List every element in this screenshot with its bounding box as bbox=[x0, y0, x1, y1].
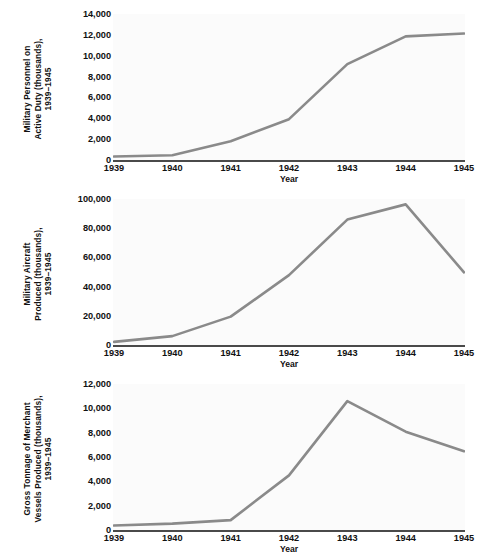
y-axis-title-container-1: Military Aircraft Produced (thousands), … bbox=[26, 199, 50, 349]
series-canvas bbox=[113, 14, 465, 160]
y-tick-label: 8,000 bbox=[88, 428, 111, 438]
x-axis-title-2: Year bbox=[113, 544, 465, 554]
y-tick-label: 12,000 bbox=[83, 379, 111, 389]
x-tick-label: 1940 bbox=[162, 533, 182, 543]
y-tick-label: 4,000 bbox=[88, 113, 111, 123]
x-tick-label: 1945 bbox=[454, 348, 474, 358]
chart-panel-merchant-vessels: Gross Tonnage of Merchant Vessels Produc… bbox=[0, 370, 491, 555]
x-axis-line-2 bbox=[113, 530, 465, 532]
x-axis-title-1: Year bbox=[113, 359, 465, 369]
y-tick-label: 4,000 bbox=[88, 476, 111, 486]
y-tick-label: 10,000 bbox=[83, 51, 111, 61]
y-axis-tick-labels-1: 020,00040,00060,00080,000100,000 bbox=[56, 199, 111, 345]
x-axis-line-0 bbox=[113, 160, 465, 162]
y-tick-label: 2,000 bbox=[88, 134, 111, 144]
chart-panel-aircraft: Military Aircraft Produced (thousands), … bbox=[0, 185, 491, 370]
y-axis-title-1: Military Aircraft Produced (thousands), … bbox=[26, 199, 50, 349]
y-tick-label: 10,000 bbox=[83, 403, 111, 413]
plot-area-2 bbox=[113, 384, 465, 530]
x-tick-label: 1944 bbox=[395, 533, 415, 543]
y-axis-tick-labels-2: 02,0004,0006,0008,00010,00012,000 bbox=[56, 384, 111, 530]
x-tick-label: 1939 bbox=[104, 533, 124, 543]
x-tick-label: 1939 bbox=[104, 348, 124, 358]
x-tick-label: 1942 bbox=[279, 163, 299, 173]
x-tick-label: 1944 bbox=[395, 348, 415, 358]
chart-panel-personnel: Military Personnel on Active Duty (thous… bbox=[0, 0, 491, 185]
plot-area-1 bbox=[113, 199, 465, 345]
y-axis-title-0: Military Personnel on Active Duty (thous… bbox=[26, 14, 50, 164]
series-canvas bbox=[113, 384, 465, 530]
x-tick-label: 1943 bbox=[337, 348, 357, 358]
y-axis-title-container-2: Gross Tonnage of Merchant Vessels Produc… bbox=[26, 384, 50, 534]
x-tick-label: 1939 bbox=[104, 163, 124, 173]
plot-area-0 bbox=[113, 14, 465, 160]
x-tick-label: 1941 bbox=[220, 533, 240, 543]
x-tick-label: 1942 bbox=[279, 533, 299, 543]
x-tick-label: 1941 bbox=[220, 163, 240, 173]
y-axis-title-2: Gross Tonnage of Merchant Vessels Produc… bbox=[26, 384, 50, 534]
data-line bbox=[114, 401, 464, 525]
x-tick-label: 1944 bbox=[395, 163, 415, 173]
y-tick-label: 6,000 bbox=[88, 452, 111, 462]
y-tick-label: 6,000 bbox=[88, 92, 111, 102]
x-tick-label: 1945 bbox=[454, 533, 474, 543]
x-tick-label: 1942 bbox=[279, 348, 299, 358]
x-tick-label: 1940 bbox=[162, 348, 182, 358]
x-tick-label: 1943 bbox=[337, 533, 357, 543]
y-tick-label: 20,000 bbox=[83, 311, 111, 321]
x-tick-label: 1945 bbox=[454, 163, 474, 173]
y-tick-label: 100,000 bbox=[78, 194, 111, 204]
y-axis-title-container-0: Military Personnel on Active Duty (thous… bbox=[26, 14, 50, 164]
x-axis-line-1 bbox=[113, 345, 465, 347]
y-tick-label: 60,000 bbox=[83, 252, 111, 262]
data-line bbox=[114, 204, 464, 341]
y-axis-tick-labels-0: 02,0004,0006,0008,00010,00012,00014,000 bbox=[56, 14, 111, 160]
y-tick-label: 80,000 bbox=[83, 223, 111, 233]
x-tick-label: 1940 bbox=[162, 163, 182, 173]
y-tick-label: 2,000 bbox=[88, 501, 111, 511]
y-tick-label: 12,000 bbox=[83, 30, 111, 40]
y-tick-label: 14,000 bbox=[83, 9, 111, 19]
data-line bbox=[114, 34, 464, 157]
series-canvas bbox=[113, 199, 465, 345]
figure-sheet: Military Personnel on Active Duty (thous… bbox=[0, 0, 491, 555]
x-tick-label: 1943 bbox=[337, 163, 357, 173]
y-tick-label: 40,000 bbox=[83, 282, 111, 292]
x-axis-title-0: Year bbox=[113, 174, 465, 184]
x-tick-label: 1941 bbox=[220, 348, 240, 358]
y-tick-label: 8,000 bbox=[88, 72, 111, 82]
